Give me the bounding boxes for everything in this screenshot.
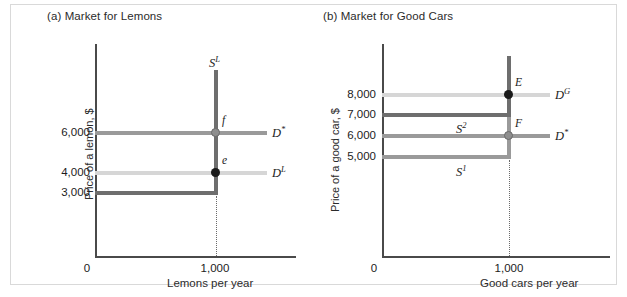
panel-b-ytick-6000: 6,000 [318, 129, 376, 141]
panel-a-point-f-marker [211, 128, 220, 137]
curve-sup-1: 1 [462, 163, 466, 173]
curve-base-D: D [272, 126, 281, 140]
panel-b-point-E-marker [504, 90, 513, 99]
panel-a-demand-star-line [95, 131, 267, 135]
curve-sup-star: * [564, 127, 568, 137]
panel-a-supply-lemons-horizontal [95, 191, 218, 195]
panel-b-supply-2-vertical [507, 56, 511, 116]
panel-b-curve-label-demand-star: D* [555, 127, 568, 144]
panel-b-curve-label-supply-1: S1 [456, 163, 467, 180]
panel-market-for-lemons: (a) Market for Lemons Price of a lemon, … [0, 0, 313, 297]
curve-sup-G: G [564, 86, 570, 96]
curve-sup-2: 2 [462, 120, 466, 130]
panel-a-curve-label-demand-lemons: DL [272, 164, 286, 181]
panel-b-ytick-8000: 8,000 [318, 88, 376, 100]
panel-b-x-axis [382, 256, 610, 258]
panel-a-title: (a) Market for Lemons [47, 10, 162, 22]
figure-container: (a) Market for Lemons Price of a lemon, … [0, 0, 627, 297]
panel-b-curve-label-demand-good: DG [555, 86, 570, 103]
curve-sup-L: L [281, 164, 286, 174]
panel-b-demand-star-line [382, 134, 550, 138]
panel-a-ytick-6000: 6,000 [36, 126, 90, 138]
curve-base-D: D [555, 88, 564, 102]
panel-a-curve-label-supply-lemons: SL [209, 54, 220, 71]
panel-b-title: (b) Market for Good Cars [323, 10, 453, 22]
panel-a-quantity-guide [216, 196, 217, 256]
panel-b-quantity-guide [509, 160, 510, 256]
curve-base-D: D [272, 166, 281, 180]
panel-a-y-axis [95, 44, 97, 257]
curve-sup-star: * [281, 124, 285, 134]
panel-b-demand-good-line [382, 93, 550, 97]
panel-a-curve-label-demand-star: D* [272, 124, 285, 141]
panel-b-point-F-marker [504, 131, 513, 140]
panel-b-xtick-1000: 1,000 [484, 262, 534, 274]
panel-a-origin-label: 0 [76, 262, 98, 274]
panel-a-x-axis-label: Lemons per year [167, 277, 253, 289]
panel-b-x-axis-label: Good cars per year [480, 277, 578, 289]
panel-market-for-good-cars: (b) Market for Good Cars Price of a good… [310, 0, 627, 297]
panel-a-point-e-label: e [222, 154, 227, 166]
panel-b-origin-label: 0 [363, 262, 385, 274]
panel-a-point-f-label: f [222, 114, 225, 126]
panel-b-point-F-label: F [515, 117, 522, 129]
panel-b-supply-1-horizontal [382, 155, 511, 159]
curve-base-D: D [555, 129, 564, 143]
panel-a-ytick-3000: 3,000 [36, 186, 90, 198]
panel-b-ytick-5000: 5,000 [318, 150, 376, 162]
panel-a-x-axis [95, 256, 296, 258]
panel-b-supply-2-horizontal [382, 113, 511, 117]
panel-a-xtick-1000: 1,000 [190, 262, 240, 274]
curve-sup-L: L [215, 54, 220, 64]
panel-a-demand-lemons-line [95, 171, 267, 175]
panel-b-point-E-label: E [515, 76, 522, 88]
panel-a-ytick-4000: 4,000 [36, 166, 90, 178]
panel-a-point-e-marker [211, 168, 220, 177]
panel-b-ytick-7000: 7,000 [318, 108, 376, 120]
panel-b-y-axis [382, 44, 384, 257]
